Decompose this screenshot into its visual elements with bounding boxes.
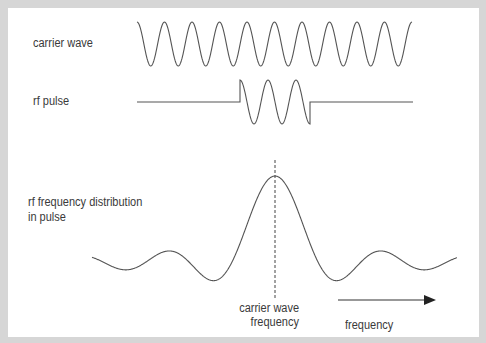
distribution-label-line2: in pulse <box>28 210 66 225</box>
carrier-frequency-label-line2: frequency <box>251 315 299 330</box>
distribution-label-line1: rf frequency distribution <box>28 195 142 210</box>
diagram-graphics <box>0 0 486 343</box>
rf-pulse-curve <box>137 80 413 124</box>
frequency-arrow-head-icon <box>424 295 436 305</box>
frequency-axis-label: frequency <box>345 318 393 333</box>
rf-pulse-label: rf pulse <box>33 94 69 109</box>
carrier-wave-label: carrier wave <box>33 36 93 51</box>
carrier-frequency-label-line1: carrier wave <box>239 301 299 316</box>
carrier-wave-curve <box>137 22 412 66</box>
